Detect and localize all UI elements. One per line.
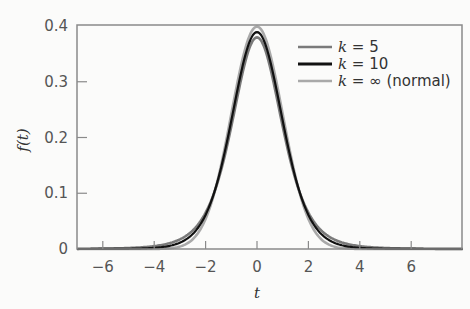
curve-0 — [77, 37, 463, 249]
x-tick-label: 4 — [355, 258, 365, 276]
x-tick-label: −2 — [195, 258, 217, 276]
t-distribution-chart: −6−4−20246 00.10.20.30.4 t f(t) k = 5k =… — [0, 0, 470, 309]
legend-item: k = 5 — [338, 38, 379, 56]
curves — [77, 27, 463, 249]
y-tick-label: 0.3 — [44, 73, 68, 91]
y-axis-label: f(t) — [14, 128, 32, 152]
y-tick-label: 0.2 — [44, 129, 68, 147]
x-tick-label: 2 — [304, 258, 314, 276]
y-tick-label: 0 — [58, 240, 68, 258]
y-tick-label: 0.1 — [44, 184, 68, 202]
x-tick-label: 0 — [252, 258, 262, 276]
x-axis-label: t — [254, 284, 261, 302]
x-tick-label: −4 — [143, 258, 165, 276]
plot-area: −6−4−20246 00.10.20.30.4 t f(t) k = 5k =… — [0, 0, 470, 309]
legend-item: k = 10 — [338, 55, 388, 73]
x-tick-label: 6 — [406, 258, 416, 276]
y-axis: 00.10.20.30.4 — [44, 17, 87, 258]
x-tick-label: −6 — [92, 258, 114, 276]
legend: k = 5k = 10k = ∞ (normal) — [298, 38, 451, 90]
legend-item: k = ∞ (normal) — [338, 72, 451, 90]
y-tick-label: 0.4 — [44, 17, 68, 35]
